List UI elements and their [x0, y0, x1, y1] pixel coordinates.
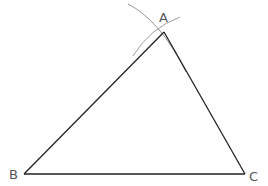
vertex-label-a: A: [159, 10, 168, 25]
edge-ac: [164, 32, 245, 174]
arc-centered-b: [133, 17, 180, 56]
edge-ab: [24, 32, 164, 174]
vertex-label-b: B: [9, 167, 18, 182]
triangle-diagram: A B C: [0, 0, 268, 186]
vertex-label-c: C: [249, 169, 258, 184]
arc-centered-c: [128, 4, 186, 72]
